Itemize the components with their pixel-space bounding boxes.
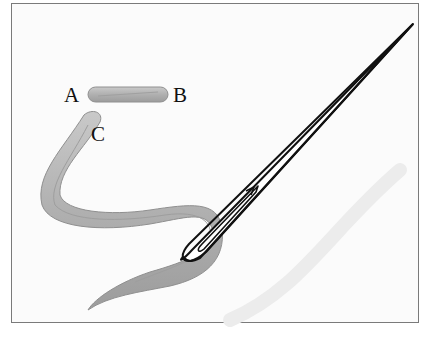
stitch-ab bbox=[88, 87, 168, 102]
thread bbox=[41, 111, 223, 310]
label-c: C bbox=[91, 124, 105, 145]
needle-thread-illustration bbox=[0, 0, 431, 337]
label-a: A bbox=[64, 85, 79, 106]
label-b: B bbox=[173, 85, 187, 106]
needle bbox=[181, 24, 413, 261]
